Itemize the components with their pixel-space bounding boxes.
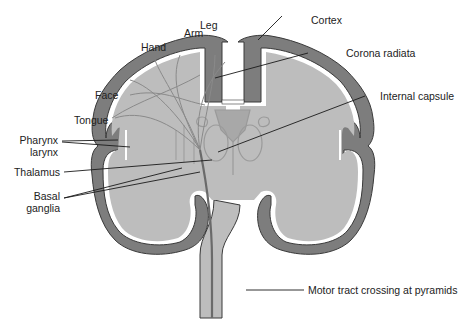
label-pharynx: Pharynx: [18, 134, 58, 146]
label-motor-tract: Motor tract crossing at pyramids: [308, 284, 457, 296]
label-cortex: Cortex: [311, 14, 342, 26]
label-basal: Basal: [18, 190, 60, 202]
label-thalamus: Thalamus: [8, 166, 60, 178]
label-face: Face: [95, 89, 118, 101]
label-internal-capsule: Internal capsule: [380, 90, 454, 102]
label-hand: Hand: [141, 41, 166, 53]
brain-motor-pathway-diagram: Leg Arm Hand Face Tongue Pharynx larynx …: [0, 0, 466, 322]
label-corona-radiata: Corona radiata: [346, 47, 415, 59]
longitudinal-fissure-ventricle: [222, 42, 244, 102]
label-arm: Arm: [184, 27, 203, 39]
label-larynx: larynx: [18, 146, 58, 158]
fissure-base: [222, 100, 244, 104]
label-ganglia: ganglia: [18, 202, 60, 214]
label-tongue: Tongue: [74, 114, 108, 126]
